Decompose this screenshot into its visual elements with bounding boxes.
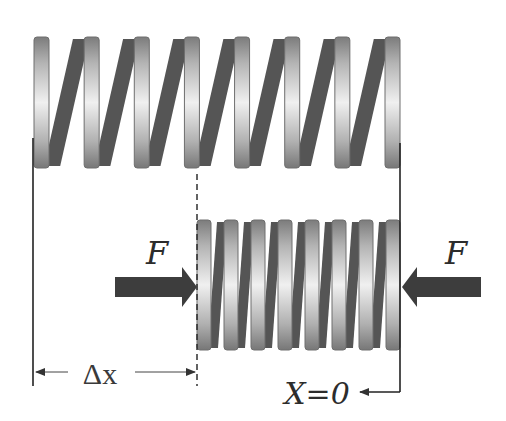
spring-coil xyxy=(134,37,149,168)
force-left-arrow-icon xyxy=(115,267,197,307)
force-right: F xyxy=(402,234,481,307)
spring-wire-segment xyxy=(195,39,240,166)
spring-coil xyxy=(359,220,373,350)
spring-coil xyxy=(34,37,49,168)
spring-coil xyxy=(235,37,250,168)
spring-wire-segment xyxy=(94,39,139,166)
force-left: F xyxy=(115,234,197,307)
force-right-arrow-icon xyxy=(402,267,481,307)
origin-label: X=0 xyxy=(282,376,350,411)
spring-coil xyxy=(184,37,199,168)
spring-wire-segment xyxy=(345,39,390,166)
compressed-spring xyxy=(197,220,400,350)
spring-coil xyxy=(335,37,350,168)
spring-coil xyxy=(332,220,346,350)
spring-coil xyxy=(197,220,211,350)
spring-wire-segment xyxy=(44,39,89,166)
spring-coil xyxy=(224,220,238,350)
force-right-label: F xyxy=(444,234,469,272)
force-left-label: F xyxy=(145,234,170,272)
spring-coil xyxy=(278,220,292,350)
displacement-label: Δx xyxy=(83,357,117,390)
spring-coil xyxy=(251,220,265,350)
spring-coil xyxy=(305,220,319,350)
origin-marker: X=0 xyxy=(282,376,400,411)
spring-wire-segment xyxy=(245,39,290,166)
spring-coil xyxy=(385,37,400,168)
relaxed-spring xyxy=(34,37,400,168)
spring-coil xyxy=(84,37,99,168)
displacement-dimension: Δx xyxy=(36,357,195,390)
spring-wire-segment xyxy=(295,39,340,166)
spring-wire-segment xyxy=(144,39,189,166)
spring-diagram: Δx X=0 F F xyxy=(0,0,506,421)
spring-coil xyxy=(285,37,300,168)
spring-coil xyxy=(386,220,400,350)
